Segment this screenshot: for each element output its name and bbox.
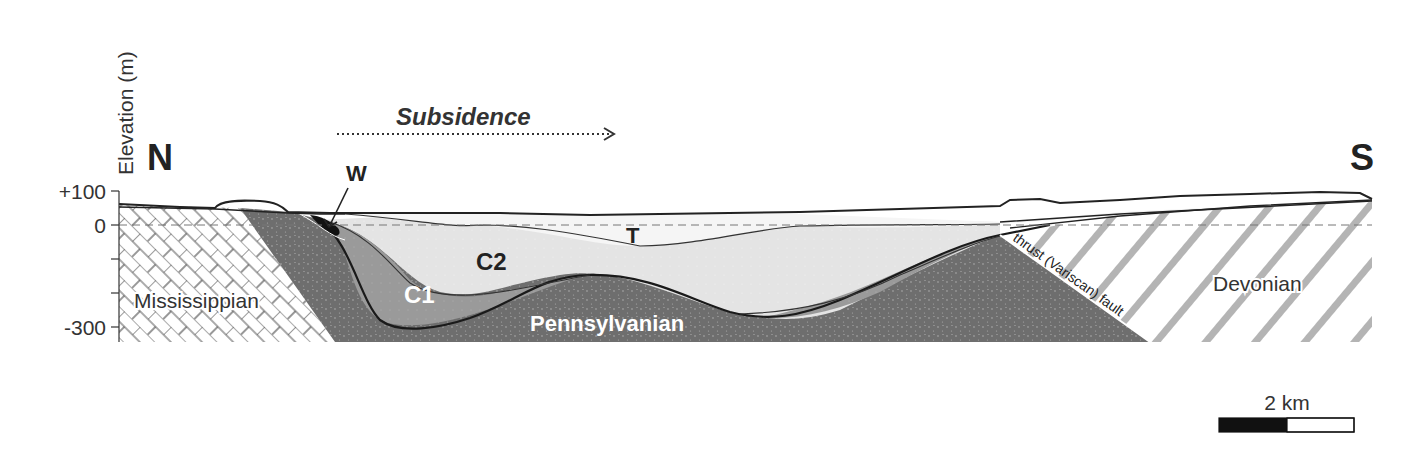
- tick-label-plus100: +100: [59, 180, 106, 203]
- tick-label-0: 0: [94, 214, 106, 237]
- y-axis-label: Elevation (m): [114, 51, 137, 175]
- tick-label-minus300: -300: [64, 316, 106, 339]
- south-label: S: [1350, 137, 1374, 178]
- c1-label: C1: [404, 281, 435, 308]
- scale-bar-label: 2 km: [1264, 391, 1310, 414]
- mississippian-label: Mississippian: [134, 289, 259, 312]
- cross-section-figure: Elevation (m) +100 0 -300 N S Subsidence…: [0, 0, 1428, 457]
- w-label: W: [346, 161, 367, 186]
- c2-label: C2: [476, 248, 507, 275]
- pennsylvanian-label: Pennsylvanian: [530, 311, 684, 336]
- t-label: T: [626, 223, 640, 248]
- y-axis-ticks: [111, 191, 119, 327]
- north-label: N: [147, 137, 173, 178]
- scale-bar: [1219, 418, 1354, 432]
- subsidence-label: Subsidence: [396, 103, 531, 130]
- devonian-label: Devonian: [1213, 272, 1302, 295]
